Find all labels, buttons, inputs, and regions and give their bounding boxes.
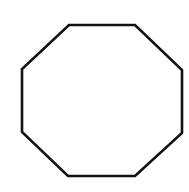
octagon-shape <box>22 25 182 176</box>
diagram-canvas <box>0 0 189 192</box>
